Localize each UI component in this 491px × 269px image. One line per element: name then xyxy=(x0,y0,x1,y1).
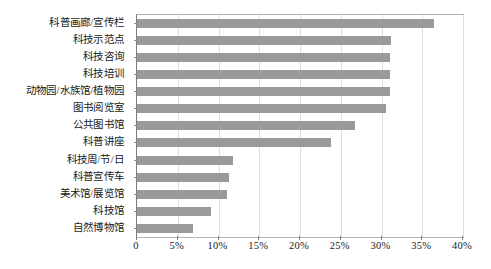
bar xyxy=(137,36,391,45)
axis-tick-stub xyxy=(134,160,137,161)
axis-tick-stub xyxy=(134,40,137,41)
category-label: 自然博物馆 xyxy=(73,222,124,233)
bars-container xyxy=(137,15,463,237)
bar xyxy=(137,70,390,79)
bar xyxy=(137,224,193,233)
x-tick-label: 20% xyxy=(289,240,309,251)
axis-tick-stub xyxy=(134,228,137,229)
x-tick-label: 10% xyxy=(207,240,227,251)
bar-row xyxy=(137,19,463,28)
axis-tick-stub xyxy=(134,91,137,92)
x-tick-label: 30% xyxy=(370,240,390,251)
bar-row xyxy=(137,70,463,79)
bar-row xyxy=(137,121,463,130)
axis-tick-stub xyxy=(134,74,137,75)
category-label: 科普讲座 xyxy=(83,136,124,147)
bar-row xyxy=(137,207,463,216)
bar xyxy=(137,173,229,182)
bar-row xyxy=(137,87,463,96)
x-tick-label: 15% xyxy=(248,240,268,251)
gridline xyxy=(463,15,464,237)
category-label: 美术馆/展览馆 xyxy=(60,188,124,199)
bar-row xyxy=(137,190,463,199)
bar xyxy=(137,104,386,113)
category-label: 科技周/节/日 xyxy=(67,154,124,165)
bar xyxy=(137,190,227,199)
category-label: 科技示范点 xyxy=(73,34,124,45)
bar-row xyxy=(137,156,463,165)
bar xyxy=(137,156,233,165)
bar-chart: 科普画廊/宣传栏科技示范点科技咨询科技培训动物园/水族馆/植物园图书阅览室公共图… xyxy=(0,0,491,269)
x-tick-label: 25% xyxy=(330,240,350,251)
category-label: 科普宣传车 xyxy=(73,171,124,182)
bar-row xyxy=(137,138,463,147)
category-label: 公共图书馆 xyxy=(73,119,124,130)
category-label: 科普画廊/宣传栏 xyxy=(49,17,124,28)
axis-tick-stub xyxy=(134,177,137,178)
bar-row xyxy=(137,173,463,182)
axis-tick-stub xyxy=(134,194,137,195)
category-label: 动物园/水族馆/植物园 xyxy=(26,85,124,96)
category-axis-labels: 科普画廊/宣传栏科技示范点科技咨询科技培训动物园/水族馆/植物园图书阅览室公共图… xyxy=(0,14,130,236)
axis-tick-stub xyxy=(134,57,137,58)
x-tick-label: 35% xyxy=(411,240,431,251)
x-tick-label: 5% xyxy=(169,240,184,251)
axis-tick-stub xyxy=(134,125,137,126)
bar xyxy=(137,138,331,147)
bar xyxy=(137,53,390,62)
bar xyxy=(137,121,355,130)
category-label: 科技馆 xyxy=(93,205,124,216)
category-label: 图书阅览室 xyxy=(73,102,124,113)
bar-row xyxy=(137,53,463,62)
bar-row xyxy=(137,104,463,113)
plot-area xyxy=(136,14,464,238)
axis-tick-stub xyxy=(134,211,137,212)
bar xyxy=(137,19,434,28)
bar xyxy=(137,207,211,216)
bar xyxy=(137,87,390,96)
bar-row xyxy=(137,36,463,45)
x-tick-label: 40% xyxy=(452,240,472,251)
axis-tick-stub xyxy=(134,108,137,109)
axis-tick-stub xyxy=(134,23,137,24)
x-axis-tick-labels: 05%10%15%20%25%30%35%40% xyxy=(0,240,491,260)
axis-tick-stub xyxy=(134,142,137,143)
x-tick-label: 0 xyxy=(133,240,139,251)
bar-row xyxy=(137,224,463,233)
category-label: 科技培训 xyxy=(83,68,124,79)
category-label: 科技咨询 xyxy=(83,51,124,62)
